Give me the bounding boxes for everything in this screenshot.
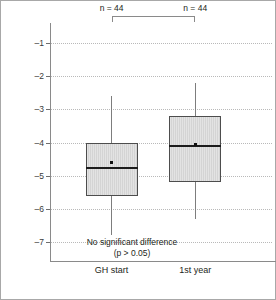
gridline--2 — [51, 76, 272, 77]
mean-marker — [110, 161, 113, 164]
gridline--5 — [51, 176, 272, 177]
n-label-1: n = 44 — [183, 3, 207, 13]
y-tick--2 — [46, 76, 50, 77]
x-axis-line — [50, 261, 276, 262]
y-axis-title: Height – MPH SDS (Prader) — [0, 0, 16, 37]
median-line — [169, 145, 221, 147]
category-label-0: GH start — [95, 265, 129, 275]
gridline--6 — [51, 209, 272, 210]
y-tick-label--6: –6 — [35, 204, 44, 214]
median-line — [86, 167, 138, 169]
annotation-line-1: No significant difference — [87, 237, 178, 247]
y-tick-label--4: –4 — [35, 138, 44, 148]
annotation-line-2: (p > 0.05) — [57, 248, 207, 259]
y-tick--7 — [46, 242, 50, 243]
box-iqr — [169, 116, 221, 182]
y-tick--5 — [46, 176, 50, 177]
gridline--3 — [51, 109, 272, 110]
n-label-0: n = 44 — [100, 3, 124, 13]
plot-area: –1–2–3–4–5–6–7 — [50, 23, 270, 262]
chart-figure: Height – MPH SDS (Prader) –1–2–3–4–5–6–7… — [0, 0, 276, 300]
significance-annotation: No significant difference (p > 0.05) — [57, 237, 207, 258]
y-tick--6 — [46, 209, 50, 210]
y-tick--4 — [46, 143, 50, 144]
y-tick--1 — [46, 43, 50, 44]
y-tick--3 — [46, 109, 50, 110]
category-label-1: 1st year — [179, 265, 211, 275]
y-tick-label--3: –3 — [35, 104, 44, 114]
y-tick-label--1: –1 — [35, 38, 44, 48]
y-tick-label--2: –2 — [35, 71, 44, 81]
y-tick-label--7: –7 — [35, 237, 44, 247]
gridline--4 — [51, 143, 272, 144]
gridline--1 — [51, 43, 272, 44]
significance-bracket — [112, 16, 196, 22]
y-tick-label--5: –5 — [35, 171, 44, 181]
mean-marker — [194, 143, 197, 146]
